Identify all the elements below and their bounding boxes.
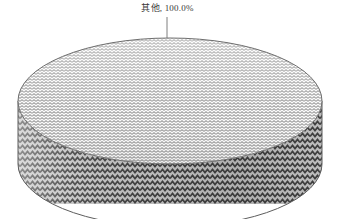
pie-slice-data-label: 其他, 100.0%	[0, 3, 338, 14]
pie-chart-3d	[0, 0, 341, 219]
pie-chart-canvas: 其他, 100.0%	[0, 0, 341, 219]
